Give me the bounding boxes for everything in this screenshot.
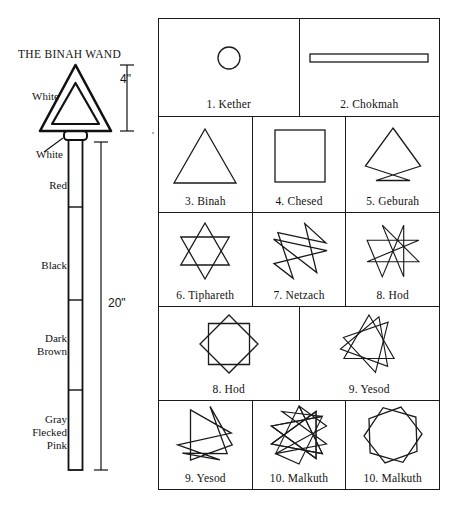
cell-label: 5. Geburah	[366, 194, 419, 210]
label-white-head: White	[32, 90, 59, 103]
label-black: Black	[41, 259, 67, 272]
figure-square	[253, 117, 346, 194]
grid-cell-malkuth-10-3[interactable]: 10. Malkuth	[253, 401, 347, 489]
figure-circle	[159, 19, 299, 97]
cell-label: 4. Chesed	[275, 194, 322, 210]
figure-line-bar	[300, 19, 440, 97]
cell-label: 6. Tiphareth	[176, 288, 234, 304]
cell-label: 3. Binah	[185, 194, 226, 210]
sephiroth-symbol-grid: 1. Kether 2. Chokmah 3. Binah	[158, 18, 440, 490]
label-gray-line2: Flecked	[32, 426, 67, 439]
wand-collar	[64, 131, 87, 140]
wand-drawing	[0, 0, 155, 518]
figure-octagram-8-2	[159, 307, 299, 382]
label-gray-line1: Gray	[32, 413, 67, 426]
cell-label: 10. Malkuth	[363, 471, 421, 487]
label-red: Red	[49, 179, 67, 192]
figure-enneagram-9-2	[159, 401, 252, 471]
grid-cell-kether[interactable]: 1. Kether	[159, 19, 300, 116]
grid-row: 8. Hod 9. Yesod	[159, 307, 439, 401]
figure-decagram-10-3	[253, 401, 346, 471]
label-gray-flecked-pink: Gray Flecked Pink	[32, 413, 67, 452]
grid-cell-yesod-9-2[interactable]: 9. Yesod	[159, 401, 253, 489]
inner-triangle-shape	[52, 83, 99, 124]
figure-enneagram-9-3	[300, 307, 440, 382]
wand-diagram-panel: THE BINAH WAND White White Red Black Dar…	[0, 0, 155, 518]
cell-label: 9. Yesod	[349, 382, 390, 398]
grid-cell-hod-8-2[interactable]: 8. Hod	[159, 307, 300, 400]
cell-label: 8. Hod	[376, 288, 409, 304]
grid-cell-hod-8-3[interactable]: 8. Hod	[346, 213, 439, 306]
cell-label: 2. Chokmah	[340, 97, 398, 114]
figure-decagram-10-2	[346, 401, 439, 471]
dimension-label-20in: 20"	[108, 296, 126, 310]
wand-shaft	[69, 140, 83, 470]
grid-row: 1. Kether 2. Chokmah	[159, 19, 439, 117]
cell-label: 10. Malkuth	[270, 471, 328, 487]
figure-hexagram	[159, 213, 252, 288]
grid-row: 6. Tiphareth 7. Netzach 8. Hod	[159, 213, 439, 307]
figure-octagram-8-3	[346, 213, 439, 288]
label-dark-brown-line2: Brown	[37, 345, 67, 358]
cell-label: 9. Yesod	[185, 471, 226, 487]
label-dark-brown-line1: Dark	[37, 332, 67, 345]
label-dark-brown: Dark Brown	[37, 332, 67, 358]
grid-cell-tiphareth[interactable]: 6. Tiphareth	[159, 213, 253, 306]
grid-cell-netzach[interactable]: 7. Netzach	[253, 213, 347, 306]
grid-row: 9. Yesod 10. Malkuth	[159, 401, 439, 489]
stray-mark	[152, 132, 154, 134]
grid-cell-binah[interactable]: 3. Binah	[159, 117, 253, 212]
figure-triangle	[159, 117, 252, 194]
grid-cell-chesed[interactable]: 4. Chesed	[253, 117, 347, 212]
dimension-label-4in: 4"	[120, 72, 131, 86]
grid-cell-chokmah[interactable]: 2. Chokmah	[300, 19, 440, 116]
label-white-collar: White	[36, 148, 63, 161]
label-gray-line3: Pink	[32, 439, 67, 452]
figure-pentagram	[346, 117, 439, 194]
cell-label: 8. Hod	[212, 382, 245, 398]
figure-heptagram	[253, 213, 346, 288]
cell-label: 1. Kether	[206, 97, 251, 114]
grid-row: 3. Binah 4. Chesed 5. Geburah	[159, 117, 439, 213]
grid-cell-yesod-9-3[interactable]: 9. Yesod	[300, 307, 440, 400]
cell-label: 7. Netzach	[273, 288, 324, 304]
grid-cell-malkuth-10-2[interactable]: 10. Malkuth	[346, 401, 439, 489]
grid-cell-geburah[interactable]: 5. Geburah	[346, 117, 439, 212]
